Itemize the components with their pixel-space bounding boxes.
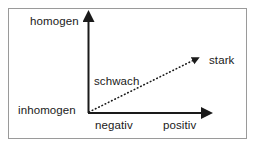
y-axis-bottom-label: inhomogen (18, 104, 76, 116)
trend-far-label: stark (209, 54, 234, 66)
trend-near-label: schwach (94, 75, 139, 87)
diagram-canvas: homogen inhomogen negativ positiv schwac… (0, 0, 259, 148)
y-axis-top-label: homogen (30, 15, 79, 27)
x-axis-right-label: positiv (163, 119, 196, 131)
x-axis-left-label: negativ (95, 119, 133, 131)
